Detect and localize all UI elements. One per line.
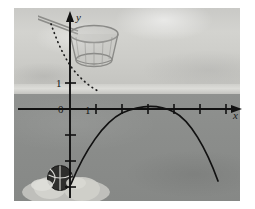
y-axis-label: y bbox=[76, 12, 81, 23]
coordinate-axes-overlay bbox=[0, 0, 255, 209]
y-axis-tick-label-1: 1 bbox=[56, 78, 62, 89]
parabola-curve bbox=[71, 106, 218, 184]
x-axis-label: x bbox=[233, 110, 238, 121]
figure-container: y x 1 0 1 bbox=[0, 0, 255, 209]
origin-label: 0 bbox=[58, 104, 64, 115]
y-axis bbox=[66, 11, 74, 198]
x-axis-tick-label-1: 1 bbox=[85, 105, 91, 116]
